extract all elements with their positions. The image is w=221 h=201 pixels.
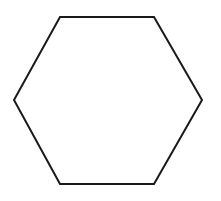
hexagon-figure <box>0 0 221 201</box>
diagram-canvas <box>0 0 221 201</box>
hexagon-shape <box>14 17 202 184</box>
